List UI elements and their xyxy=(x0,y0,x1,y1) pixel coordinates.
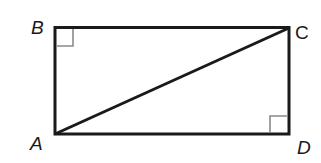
right-angle-mark-b xyxy=(57,29,74,46)
right-angle-mark-d xyxy=(270,116,288,133)
vertex-label-b: B xyxy=(31,17,44,38)
vertex-label-d: D xyxy=(297,137,311,158)
diagonal-ac xyxy=(55,28,289,134)
vertex-label-a: A xyxy=(29,133,43,154)
vertex-label-c: C xyxy=(295,22,309,43)
rectangle-diagram: B C A D xyxy=(0,0,321,163)
